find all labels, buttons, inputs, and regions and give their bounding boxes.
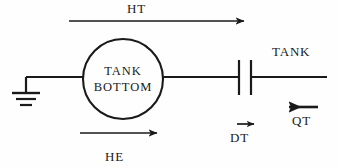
diagram-canvas: HT HE DT QT TANK TANK BOTTOM	[0, 0, 338, 168]
ground-symbol	[12, 77, 40, 105]
label-tank: TANK	[272, 45, 310, 58]
label-dt: DT	[230, 131, 249, 144]
label-qt: QT	[292, 114, 311, 127]
diagram-svg	[0, 0, 338, 168]
tank-bottom-label-line1: TANK	[83, 65, 163, 78]
tank-bottom-label-line2: BOTTOM	[83, 81, 163, 94]
tank-bottom-node	[83, 39, 163, 119]
label-he: HE	[105, 150, 124, 163]
label-ht: HT	[127, 2, 146, 15]
capacitor-symbol	[239, 60, 251, 95]
